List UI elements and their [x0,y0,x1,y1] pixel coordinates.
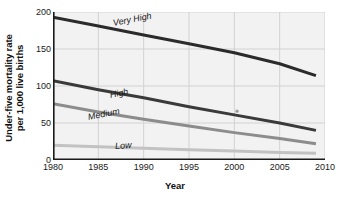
x-tick-label: 2000 [224,162,244,172]
stray-dot [235,110,238,113]
plot-area [53,12,325,160]
x-tick-label: 1980 [43,162,63,172]
x-axis-tick-labels: 1980198519901995200020052010 [0,162,350,176]
x-tick-label: 2010 [315,162,335,172]
x-tick-label: 1985 [88,162,108,172]
y-tick-label: 150 [23,44,51,54]
plot-svg [53,12,325,160]
series-label-low: Low [115,140,132,151]
x-axis-title: Year [0,180,350,191]
chart-annotations [235,110,238,113]
x-tick-label: 1995 [179,162,199,172]
y-tick-label: 50 [23,118,51,128]
chart-figure: Under-five mortality rate per 1,000 live… [0,0,350,198]
y-tick-label: 200 [23,7,51,17]
y-tick-label: 100 [23,81,51,91]
x-tick-label: 1990 [134,162,154,172]
x-tick-label: 2005 [270,162,290,172]
